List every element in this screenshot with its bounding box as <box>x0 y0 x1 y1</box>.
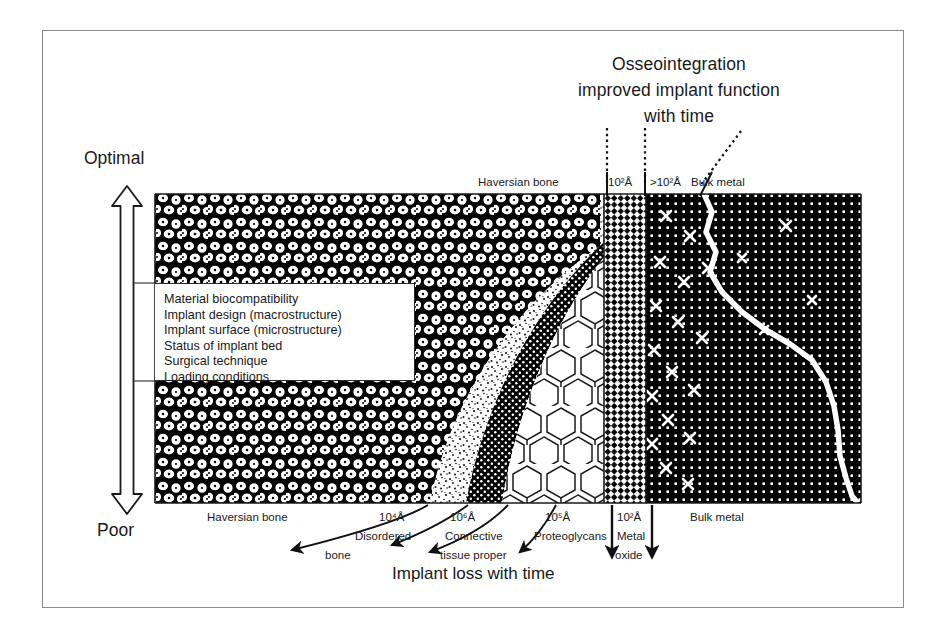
figure-title-line-2: improved implant function <box>539 79 819 101</box>
bottom-label-disordered-scale: 10⁴Å <box>379 510 404 525</box>
annotation-arrows <box>292 505 556 552</box>
bottom-label-haversian-bone: Haversian bone <box>207 510 288 525</box>
bottom-label-disordered-2: bone <box>325 548 351 563</box>
bottom-label-oxide-1: Metal <box>617 529 645 544</box>
top-label-haversian-bone: Haversian bone <box>478 175 559 190</box>
figure-canvas: Osseointegration improved implant functi… <box>0 0 948 643</box>
bottom-label-connective-scale: 10⁶Å <box>450 510 475 525</box>
bottom-label-proteoglycans-scale: 10⁵Å <box>545 510 570 525</box>
zone-bulk-metal <box>646 194 861 503</box>
bottom-label-oxide-scale: 10²Å <box>617 510 641 525</box>
bottom-label-oxide-2: oxide <box>615 548 643 563</box>
bottom-label-bulk-metal: Bulk metal <box>690 510 744 525</box>
bottom-label-connective-2: tissue proper <box>440 548 506 563</box>
figure-title-line-1: Osseointegration <box>559 53 799 75</box>
top-label-interface-scale: >10²Å <box>650 175 681 190</box>
bottom-label-proteoglycans: Proteoglycans <box>534 529 607 544</box>
factors-box: Material biocompatibility Implant design… <box>155 283 415 381</box>
figure-caption: Implant loss with time <box>392 563 555 585</box>
bottom-label-disordered-1: Disordered <box>355 529 411 544</box>
zone-metal-oxide <box>604 194 646 503</box>
figure-title-line-3: with time <box>599 105 759 127</box>
top-label-oxide-scale: 10²Å <box>608 175 632 190</box>
legend-connector <box>133 283 157 381</box>
quality-axis-arrow <box>112 186 142 514</box>
top-label-bulk-metal: Bulk metal <box>691 175 745 190</box>
axis-label-optimal: Optimal <box>84 147 144 169</box>
factor-item-5: Loading conditions <box>164 368 269 388</box>
axis-label-poor: Poor <box>97 519 134 541</box>
bottom-label-connective-1: Connective <box>445 529 503 544</box>
